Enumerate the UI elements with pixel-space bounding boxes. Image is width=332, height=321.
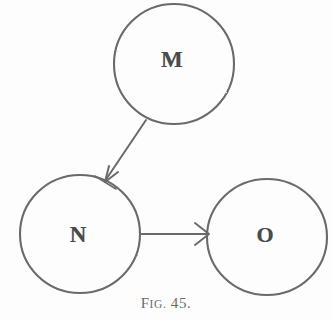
figure-45: M N O FIG. 45. [0, 0, 332, 321]
node-label-o: O [256, 224, 273, 246]
figure-caption-prefix: F [141, 295, 150, 311]
node-label-n: N [70, 223, 87, 246]
arrow-m-to-n-shaft [105, 120, 146, 181]
figure-caption-prefix-smallcaps: IG. [150, 298, 167, 310]
figure-caption: FIG. 45. [0, 295, 332, 312]
node-label-m: M [161, 48, 183, 71]
arrow-m-to-n-head [105, 166, 118, 182]
figure-caption-number: 45. [171, 295, 192, 311]
